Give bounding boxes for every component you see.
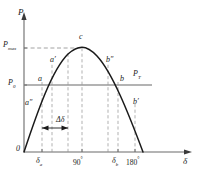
y-axis: [21, 12, 26, 152]
y-axis-label: P: [18, 8, 24, 17]
point-label-b: b: [120, 75, 124, 83]
p0-tick-label: P0: [8, 79, 15, 87]
deg90-tick-label: 90°: [73, 157, 83, 166]
delta-b-tick-label: δb: [112, 157, 118, 165]
point-label-a: a: [38, 75, 42, 83]
point-label-b-double-prime: b″: [106, 56, 113, 64]
origin-label: 0: [16, 145, 20, 153]
point-label-c: c: [79, 33, 83, 41]
pt-line-label: PT: [133, 70, 141, 78]
delta-a-tick-label: δa: [36, 157, 42, 165]
point-label-a-double-prime: a″: [25, 99, 32, 107]
point-label-b-prime: b′: [133, 98, 139, 106]
point-label-a-prime: a′: [50, 56, 56, 64]
delta-shift-arrow: [42, 126, 68, 131]
power-angle-chart: [0, 0, 204, 178]
pmax-tick-label: Pmax: [3, 41, 16, 49]
delta-shift-label: Δδ: [56, 116, 64, 124]
deg180-tick-label: 180°: [126, 157, 140, 166]
x-axis-label: δ: [183, 157, 187, 166]
